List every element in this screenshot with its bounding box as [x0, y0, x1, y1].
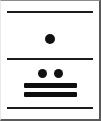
- card-frame: [0, 0, 101, 121]
- lower-register-value: 12: [0, 0, 1, 1]
- numeral-dot-icon: [38, 69, 47, 78]
- middle-rule: [7, 58, 93, 60]
- numeral-dot-icon: [45, 34, 55, 44]
- numeral-bar-icon: [24, 92, 77, 97]
- upper-register-value: 1: [0, 0, 1, 1]
- top-rule: [7, 11, 93, 13]
- bottom-rule: [7, 107, 93, 109]
- card-title: Mayan numeral glyph card: [0, 0, 1, 1]
- numeral-bar-icon: [24, 83, 77, 88]
- glyph-card: Mayan numeral glyph card 1 12: [0, 0, 101, 121]
- numeral-dot-icon: [54, 69, 63, 78]
